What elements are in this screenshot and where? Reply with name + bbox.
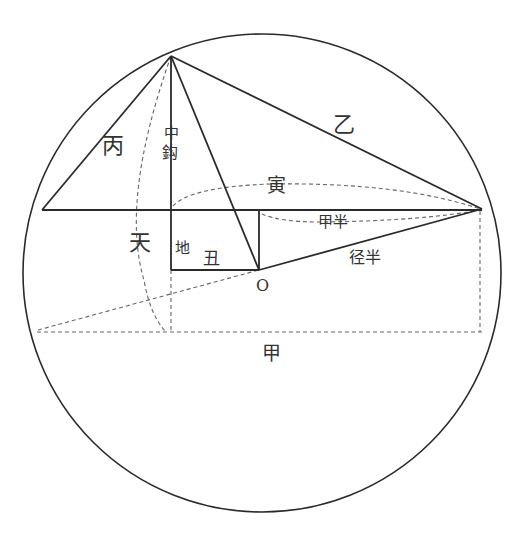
geometry-diagram: 丙 乙 中 鈎 寅 天 地 丑 甲半 径半 O 甲	[0, 0, 513, 548]
label-jiaban: 甲半	[318, 213, 348, 231]
label-di: 地	[175, 239, 190, 257]
label-tian: 天	[129, 230, 151, 255]
apex-to-O	[171, 56, 259, 270]
label-jia: 甲	[262, 342, 281, 364]
label-zhonggou-2: 鈎	[162, 143, 178, 162]
outer-circle	[23, 34, 501, 512]
label-chou: 丑	[203, 248, 220, 268]
label-o: O	[256, 276, 269, 295]
label-zhonggou-1: 中	[164, 124, 179, 142]
side-yi	[171, 56, 482, 209]
label-yi: 乙	[333, 112, 355, 137]
label-jingban: 径半	[349, 248, 381, 267]
dashed-arc-jiaban	[262, 210, 480, 222]
label-yin: 寅	[267, 174, 286, 196]
label-bing: 丙	[102, 133, 124, 158]
dashed-diameter-extension	[38, 270, 259, 330]
dashed-arc-tian	[136, 56, 171, 332]
dashed-arc-yin	[173, 184, 480, 209]
